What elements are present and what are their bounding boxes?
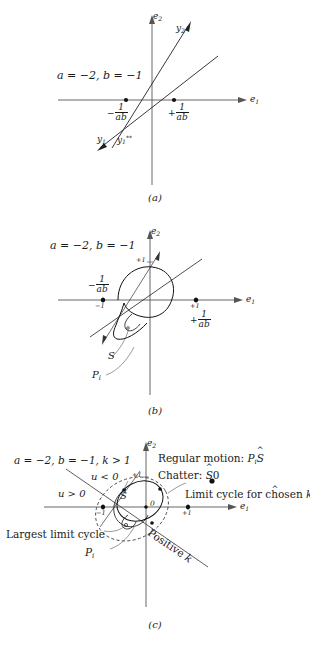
panel-b: a = −2, b = −1 e2 e1 +1 −1 +1 −1ab +1ab … [0, 215, 310, 427]
tick-label-neg-inv-ab: −1ab [107, 103, 128, 123]
axis-label-e2: e2 [147, 439, 156, 449]
panel-a-params: a = −2, b = −1 [57, 70, 142, 81]
axis-label-e2: e2 [153, 12, 162, 22]
curve-label-Pi: Pi [92, 370, 101, 382]
label-u-greater-than-zero: u > 0 [58, 489, 86, 499]
point-marker-neg [124, 98, 128, 102]
inner-point-marker [127, 327, 130, 330]
label-origin-zero: 0 [150, 500, 155, 508]
axis-label-e2: e2 [151, 227, 160, 237]
axis-label-e1: e1 [246, 295, 255, 305]
y-axis [147, 230, 153, 395]
tick-label-pos-inv-ab: +1ab [190, 310, 211, 330]
line-label-y1: y1 [97, 135, 106, 145]
label-Pi: Pi [85, 547, 94, 559]
label-largest-limit-cycle: Largest limit cycle [6, 529, 105, 540]
label-u-less-than-zero: u < 0 [91, 472, 119, 482]
legend-chatter: Chatter: S0 [158, 470, 220, 481]
tick-label-x-minus1: −1 [96, 509, 106, 517]
tick-label-x-minus1: −1 [95, 302, 105, 310]
panel-b-caption: (b) [0, 405, 310, 416]
tick-label-x-plus1: +1 [182, 509, 192, 517]
inner-spiral [125, 314, 140, 331]
line-label-y1-star-star: y1** [117, 135, 132, 145]
axis-label-e1: e1 [240, 502, 249, 512]
panel-a-caption: (a) [0, 192, 310, 203]
panel-b-plot [0, 215, 310, 427]
panel-a-plot [0, 0, 310, 215]
tick-label-x-plus1: +1 [190, 302, 200, 310]
panel-c-caption: (c) [0, 619, 310, 630]
switching-line [90, 259, 202, 337]
x-axis [44, 504, 237, 510]
curve-label-S: S [108, 351, 115, 361]
x-axis [58, 97, 247, 103]
panel-c: a = −2, b = −1, k > 1 Regular motion: Pi… [0, 427, 310, 651]
line-label-y2: y2 [176, 24, 185, 34]
point-marker-pos [172, 98, 176, 102]
label-limit-cycle-chosen-k: Limit cycle for chosen k [185, 489, 310, 500]
tick-label-neg-inv-ab: −1ab [88, 275, 109, 295]
tick-label-y-plus1: +1 [136, 256, 146, 264]
tick-label-pos-inv-ab: +1ab [168, 103, 189, 123]
panel-c-params: a = −2, b = −1, k > 1 [14, 455, 131, 466]
origin-marker [144, 505, 148, 509]
switch-marker-lower [150, 521, 154, 525]
axis-label-e1: e1 [250, 95, 259, 105]
panel-b-params: a = −2, b = −1 [50, 240, 135, 251]
tick-label-y-plus1: +1 [132, 471, 142, 479]
x-axis [58, 297, 243, 303]
panel-a: a = −2, b = −1 e2 e1 −1ab +1ab y2 y1 y1*… [0, 0, 310, 215]
